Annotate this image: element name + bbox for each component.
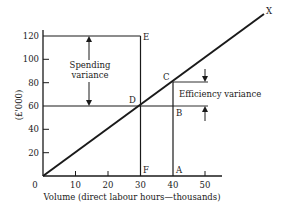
y-tick-20: 20: [28, 148, 39, 158]
y-tick-100: 100: [23, 54, 39, 64]
y-tick-120: 120: [23, 31, 39, 41]
y-axis-title: (£'000): [14, 90, 24, 121]
x-tick-10: 10: [70, 180, 81, 190]
y-tick-40: 40: [28, 124, 39, 134]
y-tick-80: 80: [28, 78, 39, 88]
x-tick-40: 40: [168, 180, 179, 190]
label-a: A: [175, 165, 183, 175]
spending-variance-label-1: Spending: [70, 60, 111, 70]
label-f: F: [143, 165, 149, 175]
x-tick-30: 30: [135, 180, 146, 190]
efficiency-variance-label: Efficiency variance: [179, 89, 261, 99]
label-c: C: [163, 72, 170, 82]
spending-variance-label-2: variance: [71, 70, 109, 80]
variance-diagram: 120 100 80 60 40 20 0 10 20 30 40 50 Vol…: [0, 0, 289, 213]
x-axis-title: Volume (direct labour hours—thousands): [43, 192, 221, 202]
x-tick-20: 20: [103, 180, 114, 190]
label-b: B: [176, 108, 182, 118]
label-d: D: [129, 95, 136, 105]
y-tick-60: 60: [28, 101, 39, 111]
label-e: E: [143, 32, 149, 42]
label-x: X: [266, 6, 273, 16]
x-tick-50: 50: [200, 180, 211, 190]
x-tick-0: 0: [32, 180, 37, 190]
